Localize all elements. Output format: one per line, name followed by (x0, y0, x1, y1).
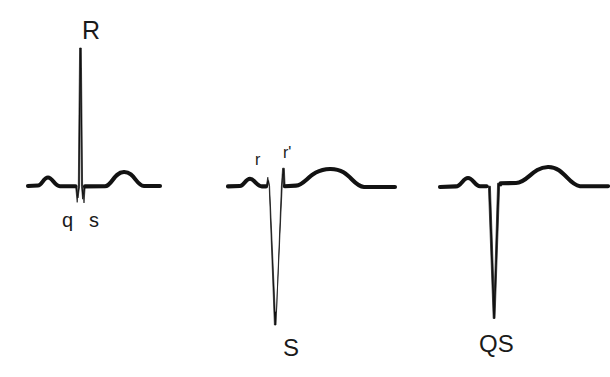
waveform-complex-rsr-prime (228, 168, 395, 325)
waveform-complex-qs (440, 167, 608, 319)
label-s: s (89, 210, 99, 230)
trace-rs-pre-qrs (28, 178, 76, 187)
label-r-prime: r' (283, 145, 291, 161)
waveform-complex-rs (28, 48, 160, 203)
trace-qs-pre-qrs (440, 178, 487, 187)
trace-rs-qrs-spike (76, 48, 86, 203)
ecg-figure: R q s r r' S QS (0, 0, 610, 377)
ecg-waveform-canvas (0, 0, 610, 377)
trace-rsr-pre-qrs (228, 179, 266, 187)
label-S: S (283, 336, 299, 360)
trace-rsr-qrs-spike (266, 168, 285, 325)
label-q: q (62, 210, 73, 230)
trace-qs-post-qrs (501, 167, 608, 186)
label-r: r (255, 152, 260, 168)
trace-rsr-post-qrs (285, 169, 395, 187)
label-R: R (82, 18, 100, 43)
trace-rs-post-qrs (85, 172, 160, 186)
label-QS: QS (479, 332, 514, 356)
trace-qs-qrs-spike (487, 183, 502, 318)
